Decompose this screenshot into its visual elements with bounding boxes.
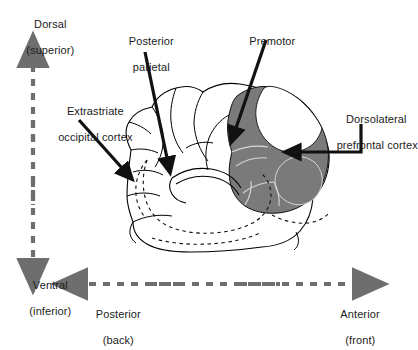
callout-premotor-line1: Premotor (249, 35, 295, 47)
gyral-band-2 (275, 157, 322, 205)
callout-dorsolateral-line2: prefrontal cortex (337, 139, 418, 151)
callout-extrastriate-line2: occipital cortex (58, 131, 132, 143)
callout-posterior-parietal-line1: Posterior (129, 35, 174, 47)
callout-posterior-parietal-line2: parietal (133, 61, 170, 73)
axis-label-ventral-line2: (inferior) (29, 305, 71, 317)
callout-extrastriate-line1: Extrastriate (67, 105, 124, 117)
axis-label-dorsal-line1: Dorsal (34, 18, 66, 30)
axis-label-anterior-line2: (front) (345, 334, 375, 346)
axis-label-anterior: Anterior (front) (312, 295, 396, 350)
callout-label-dorsolateral-prefrontal-cortex: Dorsolateral prefrontal cortex (324, 100, 416, 165)
callout-dorsolateral-line1: Dorsolateral (346, 113, 407, 125)
axis-label-anterior-line1: Anterior (340, 308, 379, 320)
axis-label-ventral-line1: Ventral (33, 279, 68, 291)
callout-label-posterior-parietal: Posterior parietal (105, 22, 185, 87)
axis-label-posterior: Posterior (back) (68, 295, 156, 350)
callout-label-premotor: Premotor (226, 22, 306, 61)
axis-label-posterior-line2: (back) (103, 334, 134, 346)
callout-label-extrastriate-occipital-cortex: Extrastriate occipital cortex (34, 92, 144, 157)
axis-label-dorsal: Dorsal (superior) (8, 5, 80, 70)
axis-label-posterior-line1: Posterior (96, 308, 141, 320)
axis-label-dorsal-line2: (superior) (26, 44, 74, 56)
